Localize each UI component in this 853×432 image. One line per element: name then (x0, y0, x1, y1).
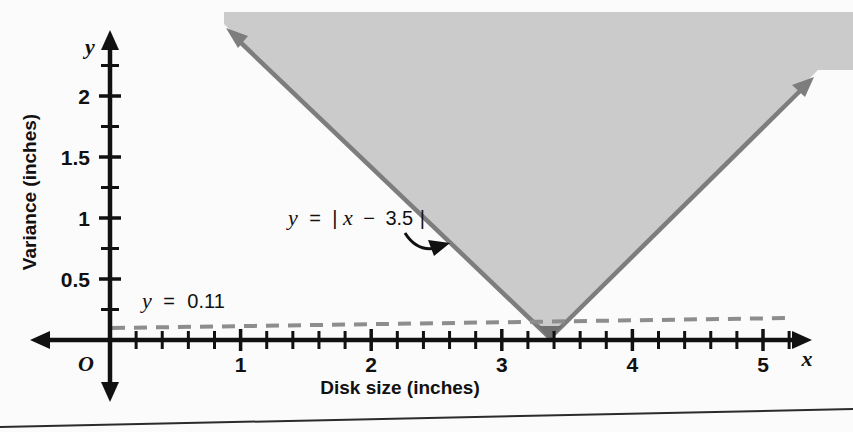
boundary-equation-text: y = | x − 3.5 | (286, 205, 425, 230)
eq-boundary-bar-open: | (332, 207, 337, 229)
y-tick-label: 2 (78, 85, 90, 108)
x-axis-arrow-left (30, 331, 50, 349)
x-tick-label: 5 (757, 353, 769, 376)
absolute-value-graph: 12345 0.511.52 x y O Disk size (inches) … (0, 0, 853, 432)
eq-tolerance-y: y (140, 288, 152, 313)
y-tick-label: 0.5 (61, 268, 91, 291)
page-divider-rule (0, 409, 853, 427)
figure-container: 12345 0.511.52 x y O Disk size (inches) … (0, 0, 853, 432)
eq-boundary-y: y (286, 205, 298, 230)
x-tick-label: 4 (627, 353, 639, 376)
eq-boundary-bar-close: | (420, 207, 425, 229)
tolerance-equation-text: y = 0.11 (140, 288, 225, 313)
shaded-solution-region (219, 0, 853, 338)
y-axis-tick-labels: 0.511.52 (61, 85, 91, 291)
eq-boundary-minus: − (363, 207, 375, 229)
y-tick-label: 1.5 (61, 146, 91, 169)
eq-boundary-number: 3.5 (385, 207, 413, 229)
y-axis-variable-label: y (82, 34, 95, 59)
y-axis-title: Variance (inches) (19, 114, 40, 270)
y-tick-label: 1 (78, 207, 90, 230)
y-axis-arrow-down (101, 382, 119, 402)
x-axis-title: Disk size (inches) (320, 377, 479, 398)
eq-boundary-x: x (342, 205, 353, 230)
x-tick-label: 1 (235, 353, 247, 376)
x-axis-tick-labels: 12345 (235, 353, 769, 376)
tolerance-equation-annotation: y = 0.11 (140, 288, 225, 313)
eq-tolerance-number: 0.11 (187, 290, 224, 312)
x-tick-label: 3 (496, 353, 508, 376)
x-tick-label: 2 (365, 353, 377, 376)
eq-tolerance-equals: = (163, 290, 175, 312)
x-axis-variable-label: x (801, 346, 813, 371)
tolerance-dashed-line (112, 318, 790, 328)
region-fill (224, 12, 853, 338)
origin-label: O (78, 351, 94, 376)
y-axis-arrow-up (101, 30, 119, 50)
eq-boundary-equals: = (309, 207, 321, 229)
